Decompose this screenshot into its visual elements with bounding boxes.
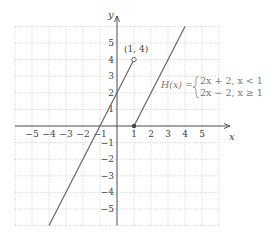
svg-text:−5: −5: [101, 204, 115, 214]
x-axis-label: x: [229, 131, 235, 142]
svg-text:−3: −3: [101, 171, 115, 181]
svg-text:4: 4: [182, 129, 188, 139]
svg-text:5: 5: [108, 38, 114, 48]
svg-text:−2: −2: [76, 129, 89, 139]
svg-text:−4: −4: [101, 187, 115, 197]
svg-text:5: 5: [199, 129, 205, 139]
function-graph: −5−4−3−2−11234554321−1−2−3−4−5 x y (1, 4…: [0, 0, 267, 239]
svg-text:2: 2: [148, 129, 154, 139]
svg-text:2: 2: [108, 88, 114, 98]
svg-text:3: 3: [108, 71, 114, 81]
svg-text:−1: −1: [101, 138, 114, 148]
brace-icon: [193, 76, 199, 98]
svg-text:4: 4: [108, 55, 114, 65]
svg-text:−3: −3: [59, 129, 73, 139]
point-label: (1, 4): [124, 44, 148, 54]
svg-text:−5: −5: [25, 129, 39, 139]
piece-2: 2x − 2, x ≥ 1: [200, 87, 263, 98]
svg-text:3: 3: [165, 129, 171, 139]
svg-text:1: 1: [131, 129, 137, 139]
y-axis-label: y: [107, 9, 114, 20]
svg-text:−4: −4: [42, 129, 56, 139]
function-name: H(x) =: [160, 79, 193, 90]
piece-1: 2x + 2, x < 1: [200, 75, 263, 86]
svg-text:−2: −2: [101, 154, 114, 164]
axes: [15, 16, 230, 226]
